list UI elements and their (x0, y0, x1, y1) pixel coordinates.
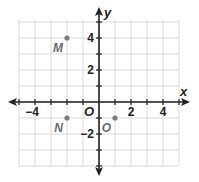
x-tick-label: 2 (128, 105, 135, 119)
point-label: O (102, 121, 112, 135)
x-tick-label: −4 (25, 105, 39, 119)
origin-label: O (84, 104, 94, 119)
point-marker (64, 115, 69, 120)
y-tick-label: −2 (80, 127, 94, 141)
x-tick-label: 4 (160, 105, 167, 119)
y-axis-label: y (103, 5, 112, 20)
point-marker (64, 35, 69, 40)
data-points: MNO (53, 35, 118, 135)
y-tick-label: 2 (87, 63, 94, 77)
y-tick-label: 4 (87, 31, 94, 45)
point-label: M (53, 41, 64, 55)
point-label: N (54, 121, 63, 135)
coordinate-plane: −42442−2 x y O MNO (0, 0, 199, 182)
point-marker (112, 115, 117, 120)
x-axis-label: x (179, 84, 188, 99)
